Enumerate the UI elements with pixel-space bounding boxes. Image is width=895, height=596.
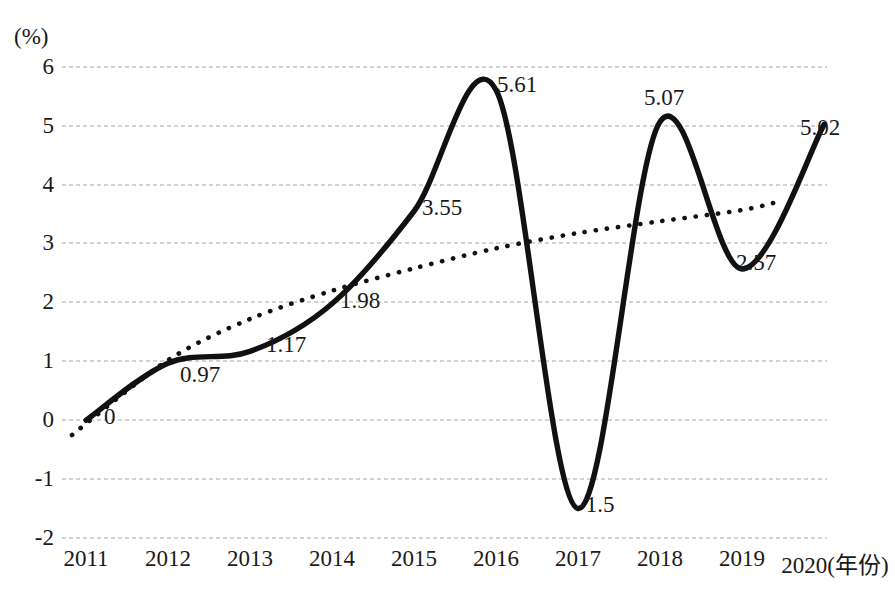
data-label-2014: 1.98 — [340, 288, 380, 314]
x-tick-2011: 2011 — [63, 546, 108, 572]
y-tick-minus2: -2 — [8, 525, 54, 551]
data-label-2018: 5.07 — [644, 85, 684, 111]
x-tick-2016: 2016 — [473, 546, 519, 572]
y-tick-2: 2 — [8, 289, 54, 315]
x-tick-2013: 2013 — [227, 546, 273, 572]
data-label-2020: 5.02 — [800, 115, 840, 141]
x-tick-2014: 2014 — [309, 546, 355, 572]
y-tick-1: 1 — [8, 348, 54, 374]
x-tick-2017: 2017 — [555, 546, 601, 572]
data-label-2015: 3.55 — [422, 195, 462, 221]
x-tick-2019: 2019 — [719, 546, 765, 572]
chart-container: (%) 6 5 4 3 2 1 0 -1 -2 2011 2012 2013 2… — [0, 0, 895, 596]
data-label-2016: 5.61 — [497, 72, 537, 98]
x-tick-2018: 2018 — [637, 546, 683, 572]
y-tick-3: 3 — [8, 230, 54, 256]
x-tick-2015: 2015 — [391, 546, 437, 572]
x-tick-2020: 2020(年份) — [781, 546, 888, 580]
data-label-2012: 0.97 — [180, 362, 220, 388]
plot-canvas — [0, 0, 895, 596]
data-label-2011: 0 — [104, 404, 116, 430]
trendline-series — [72, 201, 780, 435]
data-series-line — [86, 79, 824, 508]
x-tick-2012: 2012 — [145, 546, 191, 572]
y-tick-5: 5 — [8, 113, 54, 139]
y-tick-minus1: -1 — [8, 466, 54, 492]
y-tick-6: 6 — [8, 54, 54, 80]
data-label-2017: -1.5 — [578, 492, 614, 518]
y-tick-0: 0 — [8, 407, 54, 433]
y-tick-4: 4 — [8, 172, 54, 198]
data-label-2013: 1.17 — [266, 332, 306, 358]
data-label-2019: 2.57 — [736, 250, 776, 276]
